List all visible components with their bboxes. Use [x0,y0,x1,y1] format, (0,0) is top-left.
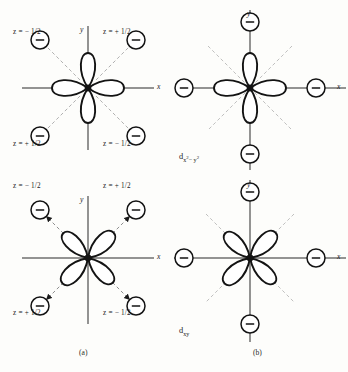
x-axis-label: x [157,82,160,91]
charge-label-upper-left: z = − 1/2 [13,28,41,36]
nucleus [85,255,92,262]
crystal-field-figure: z = − 1/2 z = + 1/2 z = + 1/2 z = − 1/2 … [0,0,348,372]
charge-label-upper-right: z = + 1/2 [103,28,131,36]
charge-label-upper-left: z = − 1/2 [13,182,41,190]
panel-top-right-drawing [174,0,348,186]
x-axis-label: x [337,82,340,91]
orbital-sub-xy: xy [183,331,189,337]
charge-label-lower-right: z = − 1/2 [103,140,131,148]
charge-label-lower-right: z = − 1/2 [103,309,131,317]
charge-label-upper-right: z = + 1/2 [103,182,131,190]
charge-label-lower-left: z = + 1/2 [13,140,41,148]
orbital-label-dx2y2: dx2− y2 [179,152,199,163]
panel-top-left: z = − 1/2 z = + 1/2 z = + 1/2 z = − 1/2 … [0,0,174,186]
panel-bottom-right-drawing [174,186,348,372]
orbital-sub-minus-y: − y [189,157,197,163]
panel-bottom-left: z = − 1/2 z = + 1/2 z = + 1/2 z = − 1/2 … [0,186,174,372]
panel-bottom-right: y x dxy [174,186,348,372]
caption-column-a: (a) [79,348,87,357]
orbital-label-dxy: dxy [179,326,189,337]
panel-bottom-left-drawing [0,186,174,372]
charge-label-lower-left: z = + 1/2 [13,309,41,317]
nucleus [85,85,92,92]
nucleus [247,85,254,92]
x-axis-label: x [157,252,160,261]
y-axis-label: y [80,195,83,204]
x-axis-label: x [337,252,340,261]
panel-top-right: y x dx2− y2 [174,0,348,186]
y-axis-label: y [247,9,250,18]
orbital-sub-exp-2: 2 [197,155,199,160]
caption-column-b: (b) [253,348,262,357]
y-axis-label: y [80,25,83,34]
nucleus [247,255,254,262]
y-axis-label: y [247,180,250,189]
